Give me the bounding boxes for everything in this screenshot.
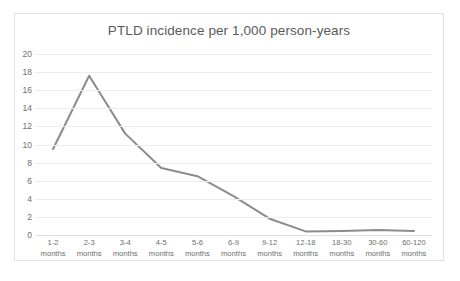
y-axis-tick-label: 12 — [23, 122, 32, 131]
y-axis-tick-label: 4 — [27, 195, 32, 204]
y-axis-tick-label: 16 — [23, 86, 32, 95]
gridline — [35, 145, 432, 146]
y-axis-tick-labels: 20181614121086420 — [15, 54, 35, 235]
x-axis-tick-label: 6-9months — [221, 238, 246, 259]
x-tick-range: 18-30 — [329, 238, 354, 249]
x-axis-tick-labels: 1-2months2-3months3-4months4-5months5-6m… — [35, 238, 432, 262]
x-tick-range: 30-60 — [365, 238, 390, 249]
gridline — [35, 217, 432, 218]
y-axis-tick-label: 0 — [27, 231, 32, 240]
x-tick-range: 1-2 — [41, 238, 66, 249]
x-axis-tick-label: 30-60months — [365, 238, 390, 259]
x-tick-range: 60-120 — [402, 238, 427, 249]
gridline — [35, 54, 432, 55]
x-tick-unit: months — [149, 249, 174, 260]
x-tick-unit: months — [41, 249, 66, 260]
gridline — [35, 72, 432, 73]
x-tick-unit: months — [185, 249, 210, 260]
x-tick-range: 3-4 — [113, 238, 138, 249]
x-axis-tick-label: 1-2months — [41, 238, 66, 259]
x-tick-range: 9-12 — [257, 238, 282, 249]
x-tick-range: 12-18 — [293, 238, 318, 249]
x-axis-tick-label: 5-6months — [185, 238, 210, 259]
x-tick-unit: months — [77, 249, 102, 260]
x-tick-unit: months — [257, 249, 282, 260]
x-tick-range: 4-5 — [149, 238, 174, 249]
x-tick-unit: months — [293, 249, 318, 260]
chart-card: PTLD incidence per 1,000 person-years 20… — [14, 13, 444, 261]
y-axis-tick-label: 6 — [27, 176, 32, 185]
x-tick-unit: months — [365, 249, 390, 260]
x-tick-range: 5-6 — [185, 238, 210, 249]
ptld-incidence-line — [53, 76, 414, 232]
chart-title: PTLD incidence per 1,000 person-years — [15, 23, 443, 38]
gridline — [35, 199, 432, 200]
x-tick-unit: months — [402, 249, 427, 260]
x-axis-tick-label: 18-30months — [329, 238, 354, 259]
x-axis-tick-label: 4-5months — [149, 238, 174, 259]
y-axis-tick-label: 2 — [27, 213, 32, 222]
y-axis-tick-label: 20 — [23, 50, 32, 59]
y-axis-tick-label: 10 — [23, 140, 32, 149]
x-axis-tick-label: 9-12months — [257, 238, 282, 259]
x-axis-tick-label: 3-4months — [113, 238, 138, 259]
x-tick-unit: months — [221, 249, 246, 260]
x-tick-range: 6-9 — [221, 238, 246, 249]
plot-area — [35, 54, 432, 235]
gridline — [35, 235, 432, 236]
gridline — [35, 181, 432, 182]
y-axis-tick-label: 14 — [23, 104, 32, 113]
y-axis-tick-label: 18 — [23, 68, 32, 77]
gridline — [35, 126, 432, 127]
gridline — [35, 90, 432, 91]
x-axis-tick-label: 60-120months — [402, 238, 427, 259]
x-tick-unit: months — [329, 249, 354, 260]
x-axis-tick-label: 2-3months — [77, 238, 102, 259]
x-axis-tick-label: 12-18months — [293, 238, 318, 259]
y-axis-tick-label: 8 — [27, 158, 32, 167]
gridline — [35, 108, 432, 109]
x-tick-range: 2-3 — [77, 238, 102, 249]
gridline — [35, 163, 432, 164]
x-tick-unit: months — [113, 249, 138, 260]
